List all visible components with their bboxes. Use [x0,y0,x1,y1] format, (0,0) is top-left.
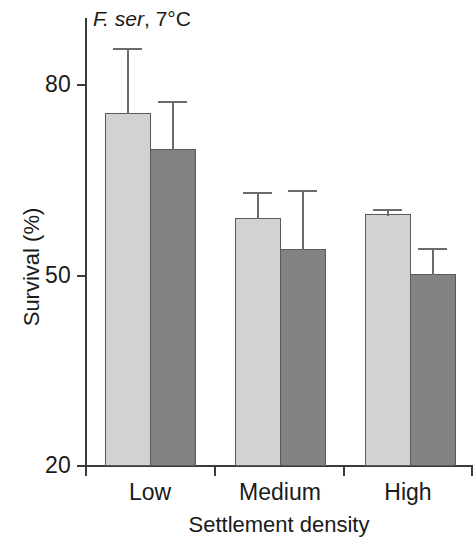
errorbar-cap-low-dark [158,101,187,103]
errorbar-cap-high-light [373,209,402,211]
x-tick-right [471,467,473,476]
y-tick-label-20: 20 [11,454,71,477]
y-tick-label-50: 50 [11,264,71,287]
bar-high-dark [410,274,456,466]
panel-title-species: F. ser [93,7,144,30]
x-tick-medium-high [343,467,345,476]
bar-medium-dark [280,249,326,466]
bar-medium-light [235,218,281,466]
y-tick-label-80: 80 [11,73,71,96]
bar-low-dark [150,149,196,466]
panel-title: F. ser, 7°C [93,7,191,31]
bar-high-light [365,214,411,466]
x-tick-low-medium [214,467,216,476]
errorbar-cap-high-dark [418,248,447,250]
bar-chart-figure: F. ser, 7°C Survival (%) 80 50 20 Low Me… [0,0,475,545]
errorbar-cap-medium-light [243,192,272,194]
bar-low-light [105,113,151,466]
x-cat-label-low: Low [80,479,220,506]
errorbar-stem-low-light [127,48,129,114]
x-cat-label-high: High [338,479,475,506]
errorbar-stem-medium-dark [302,190,304,250]
x-cat-label-medium: Medium [210,479,350,506]
y-tick-50 [77,275,86,277]
panel-title-condition: , 7°C [144,7,191,30]
errorbar-cap-medium-dark [288,190,317,192]
y-tick-80 [77,84,86,86]
errorbar-cap-low-light [113,48,142,50]
errorbar-stem-low-dark [172,101,174,150]
errorbar-stem-high-dark [432,248,434,275]
x-axis-title: Settlement density [85,512,473,538]
x-tick-left [85,467,87,476]
errorbar-stem-medium-light [257,192,259,219]
